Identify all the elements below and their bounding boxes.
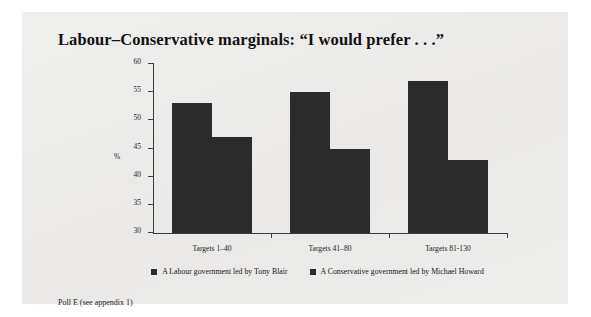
- legend-swatch-icon: [151, 269, 157, 275]
- y-axis-tick-label: 55: [134, 85, 142, 94]
- legend-item: A Labour government led by Tony Blair: [151, 267, 287, 276]
- bar: [330, 149, 370, 234]
- y-axis-label: %: [114, 152, 120, 161]
- bar: [212, 137, 252, 233]
- x-axis-line: [153, 233, 508, 234]
- plot-area: 30354045505560 Targets 1–40Targets 41–80…: [153, 64, 507, 233]
- x-axis-category-label: Targets 41–80: [309, 244, 352, 253]
- chart-panel: Labour–Conservative marginals: “I would …: [22, 12, 568, 304]
- x-axis-tick: [271, 233, 272, 238]
- page-title: Labour–Conservative marginals: “I would …: [58, 30, 444, 50]
- legend-item: A Conservative government led by Michael…: [310, 267, 484, 276]
- y-axis-tick-label: 60: [134, 57, 142, 66]
- y-axis-tick: 45: [148, 148, 154, 149]
- page-root: Labour–Conservative marginals: “I would …: [0, 0, 591, 317]
- y-axis-tick: 50: [148, 119, 154, 120]
- legend-label: A Labour government led by Tony Blair: [162, 267, 287, 276]
- bar: [408, 81, 448, 233]
- x-axis-tick: [389, 233, 390, 238]
- bar: [448, 160, 488, 233]
- y-axis-tick-label: 45: [134, 142, 142, 151]
- x-axis-category-label: Targets 81-130: [425, 244, 471, 253]
- y-axis-tick: 55: [148, 91, 154, 92]
- y-axis-tick-label: 50: [134, 113, 142, 122]
- x-axis-tick: [507, 233, 508, 238]
- y-axis-tick: 30: [148, 232, 154, 233]
- y-axis-line: [153, 64, 154, 234]
- y-axis-tick-label: 40: [134, 170, 142, 179]
- bar: [290, 92, 330, 233]
- y-axis-tick: 60: [148, 63, 154, 64]
- chart-legend: A Labour government led by Tony BlairA C…: [22, 267, 591, 276]
- x-axis-category-label: Targets 1–40: [192, 244, 231, 253]
- source-note: Poll E (see appendix 1): [58, 298, 133, 307]
- legend-label: A Conservative government led by Michael…: [321, 267, 484, 276]
- y-axis-tick: 35: [148, 204, 154, 205]
- y-axis-tick: 40: [148, 176, 154, 177]
- y-axis-tick-label: 35: [134, 198, 142, 207]
- legend-swatch-icon: [310, 269, 316, 275]
- bar: [172, 103, 212, 233]
- y-axis-tick-label: 30: [134, 226, 142, 235]
